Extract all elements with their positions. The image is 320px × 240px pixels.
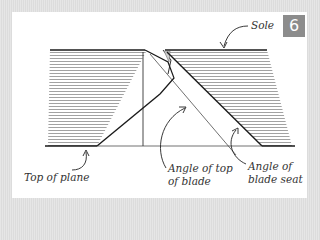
top-of-plane-arrow-icon [72,150,89,170]
angle-seat-label-line2: blade seat [248,173,303,185]
angle-seat-label-line1: Angle of [248,160,292,172]
sole-arrow-icon [220,26,248,48]
angle-top-blade-label-line1: Angle of top [168,162,233,174]
top-of-plane-label: Top of plane [24,171,89,183]
angle-top-blade-label-line2: of blade [168,175,211,187]
right-body-hatching [165,50,292,146]
sole-label: Sole [251,19,274,31]
left-body-hatching [48,50,147,146]
angle-top-blade-arrow-icon [160,107,186,168]
